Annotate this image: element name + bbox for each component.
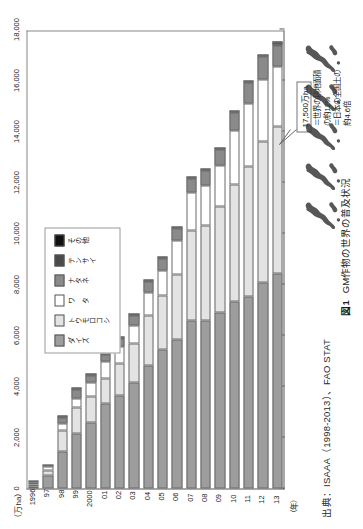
legend-swatch (54, 314, 64, 326)
bar-segment-2 (71, 407, 81, 433)
bar-row: 05 (157, 256, 167, 488)
bar-segment-2 (229, 184, 239, 301)
legend-label: トウモロコシ (67, 316, 109, 323)
legend-item-5: テンサイ (54, 251, 95, 270)
chart-legend: ダイズトウモロコシワ タナタネテンサイその他 (44, 227, 120, 353)
bar-segment-4 (42, 464, 52, 467)
x-axis-tick-label: 2,000 (11, 428, 20, 447)
bar-segment-2 (257, 141, 267, 283)
bar-segment-2 (42, 470, 52, 475)
bar-segment-1 (229, 301, 239, 488)
bar-segment-4 (214, 149, 224, 165)
bar-segment-3 (257, 79, 267, 141)
bar-row: 97 (42, 464, 52, 488)
bar-segment-3 (143, 292, 153, 315)
legend-label: ダイズ (67, 336, 88, 343)
legend-swatch (54, 234, 64, 246)
bar-segment-4 (71, 389, 81, 398)
bar-row: 03 (128, 313, 138, 488)
legend-item-1: ダイズ (54, 331, 88, 350)
bar-segment-5 (171, 226, 181, 228)
bar-row: 1996 (28, 480, 38, 488)
bar-segment-4 (85, 375, 95, 382)
bar-segment-5 (157, 256, 167, 258)
bar-segment-3 (229, 130, 239, 184)
bar-segment-4 (28, 480, 38, 482)
x-axis-unit-label: （万ha） (11, 488, 22, 521)
bar-row: 02 (114, 336, 124, 488)
bar-row: 09 (214, 147, 224, 488)
legend-label: ワ タ (67, 296, 88, 303)
y-axis-category-label: 07 (185, 493, 194, 501)
bar-segment-2 (200, 225, 210, 320)
bar-row: 98 (57, 415, 67, 488)
bar-segment-1 (171, 339, 181, 488)
source-credit: 出典：ISAAA（1998-2013）、FAO STAT (318, 338, 332, 517)
bar-segment-5 (128, 313, 138, 315)
y-axis-unit-label: （年） (287, 495, 298, 516)
bar-segment-5 (143, 280, 153, 282)
x-axis-tick (279, 28, 284, 29)
y-axis-category-label: 03 (127, 491, 136, 499)
legend-swatch (54, 254, 64, 266)
y-axis-category-label: 2000 (84, 490, 93, 507)
bar-segment-1 (272, 273, 282, 488)
bar-row: 07 (186, 176, 196, 488)
figure-number: 図1 (339, 300, 350, 315)
bar-segment-2 (85, 396, 95, 422)
japan-map-silhouette-icon (301, 78, 351, 111)
y-axis-category-label: 01 (99, 490, 108, 498)
y-axis-category-label: 99 (70, 490, 79, 498)
japan-map-silhouette-icon (301, 118, 351, 151)
bar-segment-4 (200, 170, 210, 185)
bar-segment-4 (272, 45, 282, 66)
bar-segment-1 (214, 312, 224, 488)
bar-row: 01 (100, 352, 110, 488)
bar-segment-2 (128, 343, 138, 382)
bar-segment-1 (57, 451, 67, 488)
bar-segment-2 (171, 274, 181, 338)
japan-map-silhouette-icon (301, 157, 351, 190)
x-axis-tick-label: 12,000 (11, 171, 20, 194)
bar-segment-4 (186, 178, 196, 192)
bar-segment-2 (214, 206, 224, 312)
bar-segment-3 (128, 325, 138, 343)
legend-label: ナタネ (67, 276, 88, 283)
bar-segment-4 (100, 354, 110, 361)
bar-segment-4 (143, 282, 153, 293)
bar-segment-4 (243, 82, 253, 103)
y-axis-category-label: 13 (271, 495, 280, 503)
x-axis-tick-label: 8,000 (11, 275, 20, 294)
bar-segment-2 (143, 315, 153, 364)
legend-item-3: ワ タ (54, 291, 88, 310)
bar-row: 11 (243, 80, 253, 488)
bar-segment-4 (157, 258, 167, 270)
bar-segment-3 (171, 240, 181, 274)
bar-segment-3 (200, 185, 210, 225)
bar-segment-5 (85, 373, 95, 375)
y-axis-category-label: 1996 (27, 488, 36, 505)
bar-segment-1 (114, 395, 124, 488)
y-axis-category-label: 05 (156, 492, 165, 500)
x-axis-tick-label: 6,000 (11, 326, 20, 345)
bar-row: 2000 (85, 373, 95, 488)
bar-segment-4 (128, 315, 138, 324)
bar-segment-3 (71, 398, 81, 407)
x-axis-tick-label: 16,000 (11, 69, 20, 92)
bar-segment-1 (157, 349, 167, 488)
x-axis-tick-label: 14,000 (11, 120, 20, 143)
x-axis-tick-label: 10,000 (11, 222, 20, 245)
bar-segment-2 (243, 166, 253, 296)
bar-segment-5 (57, 415, 67, 417)
bar-segment-3 (243, 103, 253, 166)
y-axis-category-label: 11 (242, 495, 251, 503)
y-axis-category-label: 02 (113, 490, 122, 498)
bar-segment-3 (186, 192, 196, 230)
bar-row: 12 (257, 54, 267, 488)
x-axis-tick-label: 18,000 (11, 18, 20, 41)
legend-swatch (54, 334, 64, 346)
rotated-figure-canvas: 出典：ISAAA（1998-2013）、FAO STAT 図1GM作物の世界の普… (0, 0, 363, 529)
japan-map-silhouette-icon (301, 196, 351, 229)
bar-segment-5 (186, 176, 196, 178)
bar-segment-1 (200, 320, 210, 488)
